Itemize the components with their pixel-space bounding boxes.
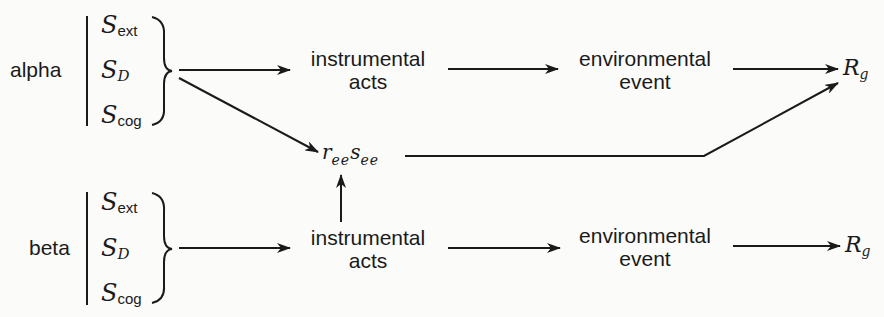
node-environmental-event-alpha: environmental event — [565, 47, 725, 93]
stimulus-cog: Scog — [101, 281, 142, 306]
node-instrumental-acts-alpha: instrumental acts — [296, 47, 440, 93]
diagram-connectors — [0, 0, 884, 317]
response-goal-beta: Rg — [845, 232, 871, 259]
node-instrumental-acts-beta: instrumental acts — [296, 226, 440, 272]
alpha-brace-icon — [152, 17, 172, 125]
mediator-r-s-ee: reesee — [322, 140, 379, 168]
stimulus-ext: Sext — [101, 13, 137, 38]
stimulus-drive: SD — [101, 58, 129, 84]
node-environmental-event-beta: environmental event — [565, 224, 725, 270]
stimulus-ext: Sext — [101, 190, 137, 215]
stimulus-drive: SD — [101, 236, 129, 262]
group-label-beta: beta — [29, 236, 70, 260]
stimulus-cog: Scog — [101, 103, 142, 128]
group-label-alpha: alpha — [10, 58, 61, 82]
response-goal-alpha: Rg — [843, 55, 869, 82]
